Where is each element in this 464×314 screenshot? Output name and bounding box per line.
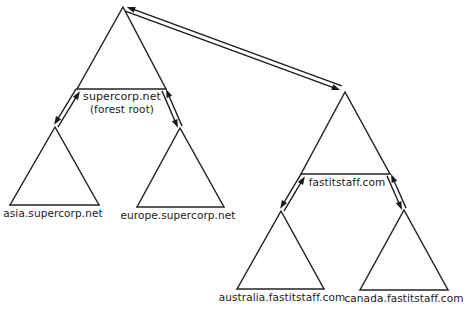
- trust-line-reverse-supercorp-asia: [58, 97, 77, 127]
- triangle-fastitstaff: [301, 92, 390, 174]
- node-label-canada-text: canada.fastitstaff.com: [344, 292, 463, 304]
- trust-link-fastitstaff-canada: [387, 174, 406, 210]
- triangle-asia: [10, 127, 99, 205]
- trust-arrowhead-reverse-fastitstaff-canada: [391, 174, 397, 183]
- trust-link-supercorp-fastitstaff: [125, 7, 342, 90]
- node-label-asia: asia.supercorp.net: [3, 207, 102, 219]
- triangle-edges-supercorp: [77, 7, 166, 89]
- triangle-australia: [237, 211, 324, 289]
- triangle-europe: [137, 128, 224, 207]
- node-label-supercorp-sub: (forest root): [83, 103, 161, 116]
- triangle-edges-canada: [360, 210, 448, 290]
- triangle-canada: [360, 210, 448, 290]
- triangle-supercorp: [77, 7, 166, 89]
- triangle-edges-asia: [10, 127, 99, 205]
- trust-line-reverse-supercorp-fastitstaff: [133, 9, 342, 86]
- trust-link-fastitstaff-australia: [280, 174, 305, 211]
- triangle-edges-europe: [137, 128, 224, 207]
- trust-link-supercorp-asia: [54, 89, 80, 127]
- node-label-asia-text: asia.supercorp.net: [3, 207, 102, 219]
- triangle-edges-australia: [237, 211, 324, 289]
- triangle-edges-fastitstaff: [301, 92, 390, 174]
- trust-line-reverse-fastitstaff-australia: [284, 182, 302, 211]
- node-label-supercorp-text: supercorp.net: [83, 90, 161, 103]
- forest-trust-diagram: supercorp.net (forest root) asia.superco…: [0, 0, 464, 314]
- node-label-europe: europe.supercorp.net: [120, 209, 235, 221]
- trust-link-supercorp-europe: [162, 89, 182, 128]
- trust-line-forward-fastitstaff-australia: [283, 174, 301, 203]
- trust-line-forward-supercorp-asia: [58, 89, 77, 119]
- trust-arrowhead-forward-fastitstaff-canada: [396, 201, 402, 210]
- node-label-australia-text: australia.fastitstaff.com: [219, 291, 346, 303]
- node-label-europe-text: europe.supercorp.net: [120, 209, 235, 221]
- node-label-fastitstaff: fastitstaff.com: [309, 176, 386, 188]
- diagram-canvas: [0, 0, 464, 314]
- node-label-canada: canada.fastitstaff.com: [344, 292, 463, 304]
- trust-arrowhead-forward-supercorp-europe: [172, 119, 178, 128]
- node-label-fastitstaff-text: fastitstaff.com: [309, 176, 386, 188]
- node-label-supercorp: supercorp.net (forest root): [83, 91, 161, 116]
- trust-line-forward-supercorp-fastitstaff: [125, 11, 334, 88]
- trust-arrowhead-reverse-supercorp-europe: [166, 89, 172, 98]
- node-label-australia: australia.fastitstaff.com: [219, 291, 346, 303]
